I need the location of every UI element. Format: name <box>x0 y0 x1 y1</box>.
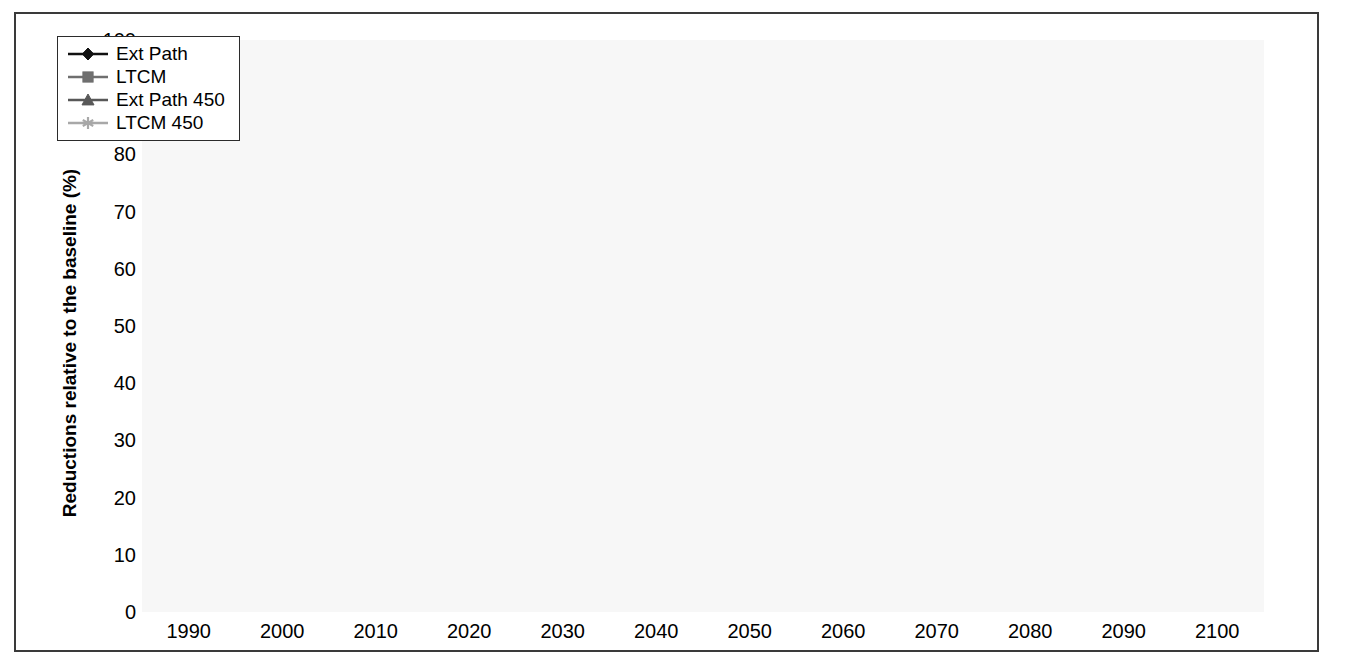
y-tick-label: 60 <box>84 259 136 279</box>
x-tick-label: 1990 <box>167 620 212 643</box>
legend-label: Ext Path 450 <box>116 90 225 109</box>
x-axis-tick-labels: 1990200020102020203020402050206020702080… <box>142 618 1264 648</box>
chart-screenshot: Reductions relative to the baseline (%) … <box>0 0 1345 666</box>
y-tick-label: 40 <box>84 373 136 393</box>
marker-diamond <box>82 48 93 60</box>
legend-marker-star-icon <box>66 113 110 133</box>
x-tick-label: 2000 <box>260 620 305 643</box>
y-tick-label: 0 <box>84 602 136 622</box>
x-tick-label: 2010 <box>354 620 399 643</box>
y-tick-label: 30 <box>84 430 136 450</box>
legend-label: LTCM <box>116 67 166 86</box>
legend-marker-square-icon <box>66 67 110 87</box>
marker-square <box>83 71 93 81</box>
plot-background <box>142 40 1264 612</box>
x-tick-label: 2020 <box>447 620 492 643</box>
legend-item-ext-path[interactable]: Ext Path <box>66 42 225 65</box>
legend-label: Ext Path <box>116 44 188 63</box>
y-tick-label: 20 <box>84 488 136 508</box>
legend-item-ext-path-450[interactable]: Ext Path 450 <box>66 88 225 111</box>
y-tick-label: 80 <box>84 144 136 164</box>
y-tick-label: 10 <box>84 545 136 565</box>
legend-item-ltcm-450[interactable]: LTCM 450 <box>66 111 225 134</box>
x-tick-label: 2040 <box>634 620 679 643</box>
legend-marker-triangle-icon <box>66 90 110 110</box>
x-tick-label: 2090 <box>1102 620 1147 643</box>
x-tick-label: 2080 <box>1008 620 1053 643</box>
y-tick-label: 50 <box>84 316 136 336</box>
legend-marker-diamond-icon <box>66 44 110 64</box>
plot-area-wrapper <box>142 40 1264 612</box>
figure-frame: Reductions relative to the baseline (%) … <box>14 12 1319 652</box>
x-tick-label: 2100 <box>1195 620 1240 643</box>
x-tick-label: 2030 <box>541 620 586 643</box>
legend-item-ltcm[interactable]: LTCM <box>66 65 225 88</box>
x-tick-label: 2070 <box>915 620 960 643</box>
legend-label: LTCM 450 <box>116 113 203 132</box>
x-tick-label: 2060 <box>821 620 866 643</box>
legend: Ext PathLTCMExt Path 450LTCM 450 <box>57 36 240 141</box>
y-tick-label: 70 <box>84 202 136 222</box>
x-tick-label: 2050 <box>728 620 773 643</box>
